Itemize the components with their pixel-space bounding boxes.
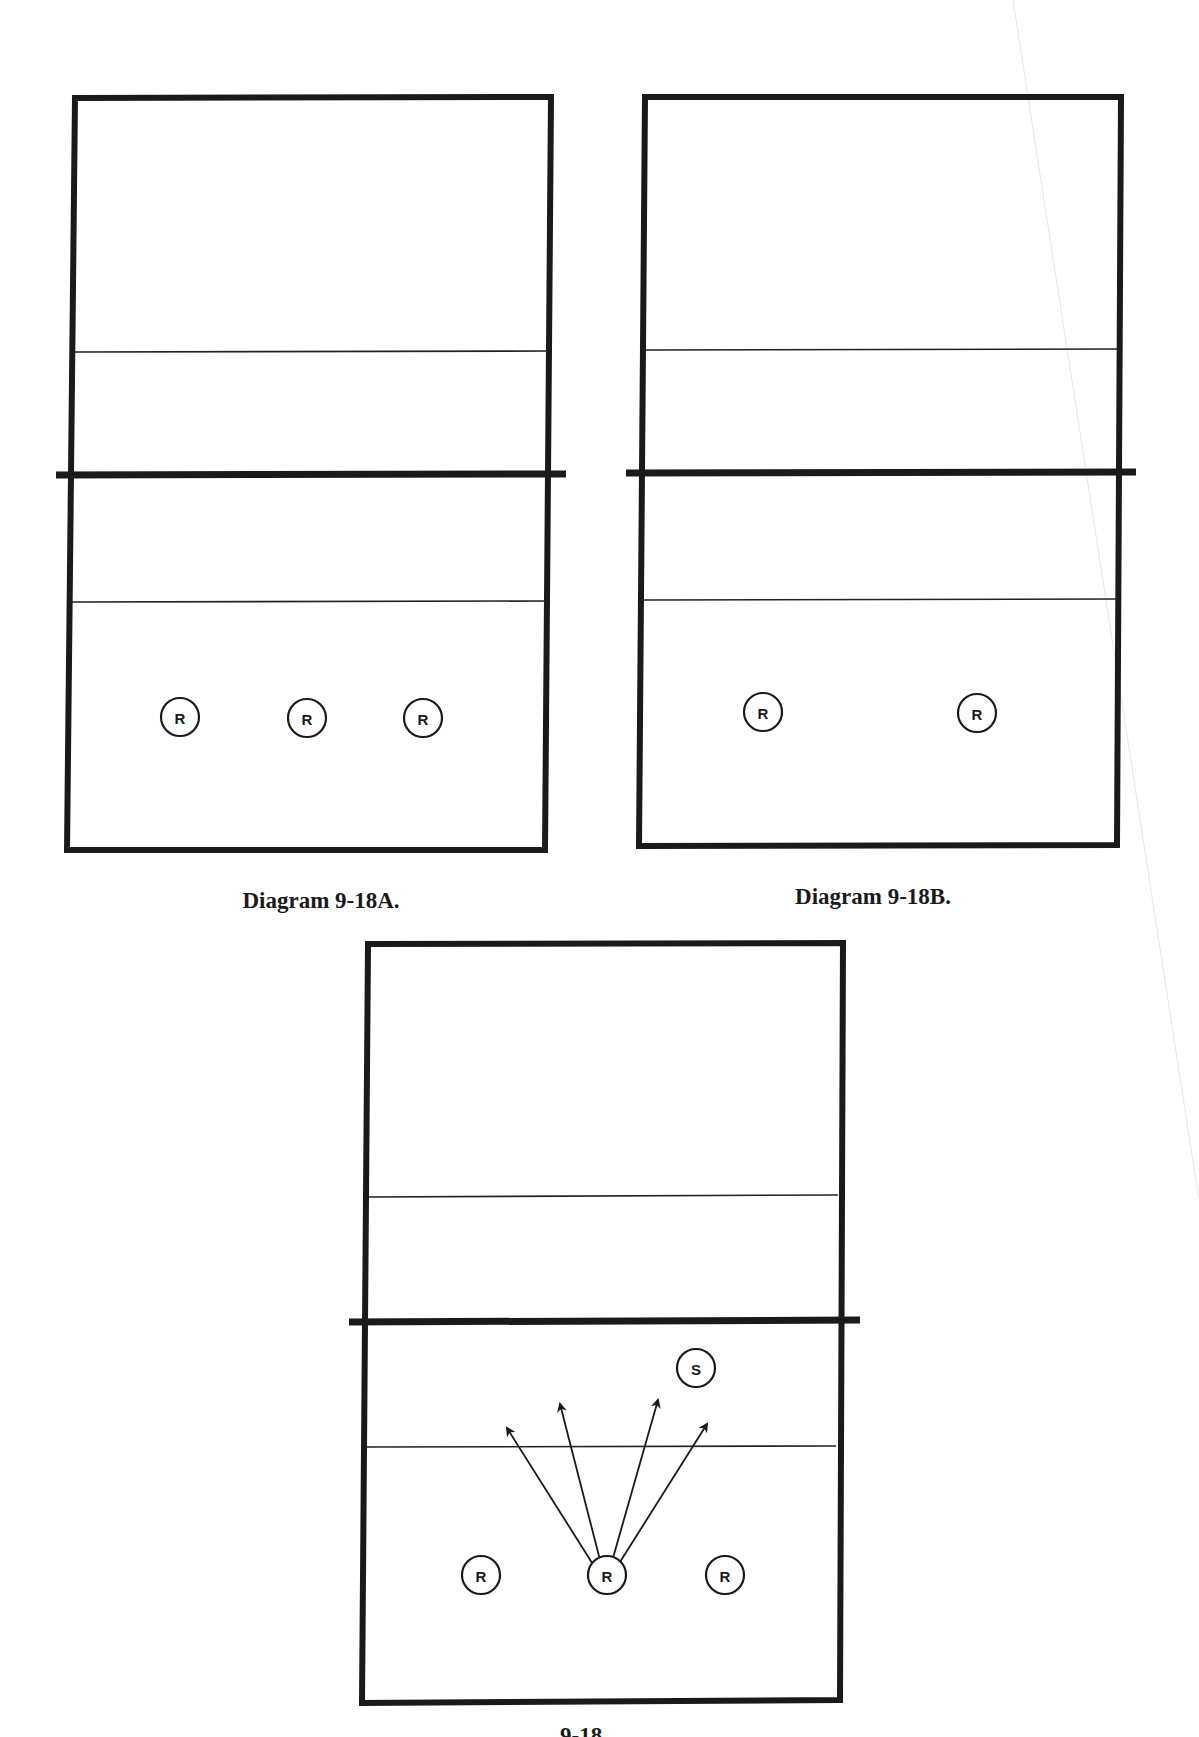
player-receiver: R <box>958 694 996 732</box>
diagram-canvas: R R R R R <box>0 0 1199 1737</box>
net-line <box>56 474 566 475</box>
arrow-icon <box>507 1428 594 1566</box>
scan-artifact-line <box>1013 0 1199 1200</box>
attack-line-near <box>643 599 1116 600</box>
net-line <box>626 472 1136 473</box>
caption-diagram-c-partial: 9-18 <box>560 1723 602 1737</box>
svg-text:R: R <box>418 711 429 728</box>
player-receiver: R <box>288 699 326 737</box>
svg-text:R: R <box>972 706 983 723</box>
attack-line-far <box>369 1195 838 1197</box>
svg-text:R: R <box>476 1568 487 1585</box>
arrow-icon <box>560 1404 600 1560</box>
svg-text:R: R <box>758 705 769 722</box>
court-diagram-c: S R R R <box>349 943 860 1703</box>
arrow-icon <box>613 1400 658 1558</box>
svg-text:R: R <box>602 1568 613 1585</box>
attack-line-far <box>75 351 547 352</box>
player-receiver-center: R <box>588 1556 626 1594</box>
caption-diagram-b: Diagram 9-18B. <box>795 884 951 910</box>
player-receiver: R <box>161 698 199 736</box>
player-receiver: R <box>744 693 782 731</box>
court-diagram-b: R R <box>626 97 1136 846</box>
attack-line-far <box>645 349 1118 350</box>
player-receiver: R <box>462 1556 500 1594</box>
arrow-icon <box>620 1424 707 1562</box>
player-receiver: R <box>706 1556 744 1594</box>
attack-line-near <box>367 1446 836 1447</box>
player-receiver: R <box>404 699 442 737</box>
svg-text:S: S <box>691 1361 701 1378</box>
net-line <box>349 1320 860 1322</box>
caption-diagram-a: Diagram 9-18A. <box>242 888 399 914</box>
svg-text:R: R <box>302 711 313 728</box>
svg-text:R: R <box>720 1568 731 1585</box>
court-diagram-a: R R R <box>56 97 566 850</box>
attack-arrows <box>507 1400 707 1566</box>
player-setter: S <box>677 1349 715 1387</box>
attack-line-near <box>72 601 545 602</box>
svg-text:R: R <box>175 710 186 727</box>
